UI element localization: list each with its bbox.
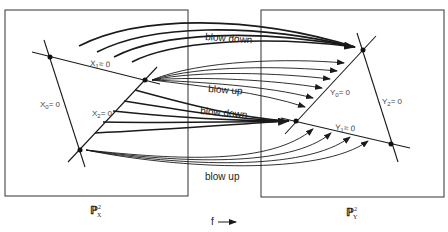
source-plane-title: ℙ2X (90, 204, 102, 218)
cremona-diagram: blow down blow up blow down blow up X1= … (0, 0, 448, 232)
blow-down-curves-bottom (95, 90, 289, 133)
label-x2: X2= 0 (92, 109, 113, 119)
label-blow-up-top: blow up (208, 83, 244, 96)
label-y0: Y0= 0 (330, 88, 351, 98)
target-plane-title: ℙ2Y (346, 206, 358, 220)
blow-up-curves-top (152, 61, 344, 107)
map-label: f (211, 216, 214, 227)
blow-up-curves-bottom (86, 129, 368, 166)
label-x0: X0= 0 (40, 100, 61, 110)
label-blow-up-bottom: blow up (205, 171, 240, 182)
label-x1: X1= 0 (90, 59, 111, 70)
label-y2: Y2= 0 (382, 97, 403, 107)
map-f: f (211, 216, 236, 227)
label-y1: Y1= 0 (335, 123, 356, 134)
